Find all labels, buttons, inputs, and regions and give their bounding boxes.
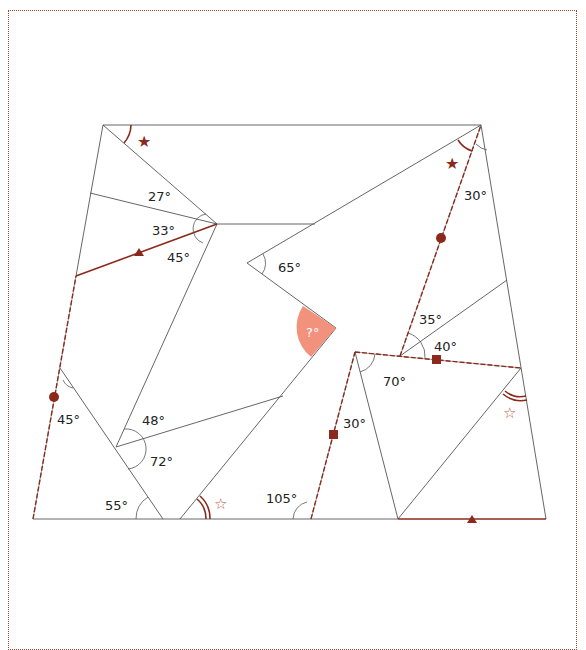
square-marker-left [329, 430, 338, 439]
unknown-angle-label: ?° [306, 325, 319, 340]
angle-label-27: 27° [148, 189, 171, 204]
angle-label-45-top: 45° [167, 250, 190, 265]
arc-star-B [458, 140, 472, 151]
angle-label-33: 33° [152, 223, 175, 238]
left-edge-upper [76, 125, 103, 276]
marked-segment-left [76, 224, 217, 276]
arc-45-left [63, 380, 73, 388]
outline-star-icon-right: ☆ [503, 404, 516, 422]
angle-label-70: 70° [383, 374, 406, 389]
angle-label-72: 72° [150, 454, 173, 469]
arc-35-40 [408, 333, 425, 358]
angle-label-55: 55° [105, 498, 128, 513]
circle-marker-left [49, 392, 59, 402]
arc-55 [136, 497, 148, 519]
line-B-V [247, 125, 481, 263]
arc-70 [360, 354, 375, 372]
arc-outline-star-1b [200, 496, 210, 519]
square-marker-top [432, 355, 441, 364]
arc-48-72 [124, 429, 146, 469]
arc-65 [262, 254, 266, 274]
line-left-vertex-bottom [60, 368, 163, 519]
arc-outline-star-2b [503, 394, 527, 401]
line-Q-bottom [180, 328, 336, 519]
angle-label-48: 48° [142, 413, 165, 428]
angle-label-45-left: 45° [57, 412, 80, 427]
outline-star-icon-bottom: ☆ [214, 495, 227, 513]
filled-star-icon-left: ★ [137, 132, 151, 151]
angle-label-30-mid: 30° [343, 416, 366, 431]
angle-label-65: 65° [278, 260, 301, 275]
angle-label-30-top: 30° [464, 188, 487, 203]
arc-star-A [124, 125, 131, 143]
angle-label-105: 105° [266, 491, 297, 506]
filled-star-icon-right: ★ [445, 154, 459, 173]
arc-outline-star-2a [505, 391, 526, 397]
circle-marker-right [436, 233, 446, 243]
angle-label-35: 35° [419, 312, 442, 327]
right-edge [481, 125, 546, 519]
angle-label-40: 40° [434, 339, 457, 354]
line-A-P [103, 125, 217, 224]
diagonal-square [398, 368, 521, 519]
